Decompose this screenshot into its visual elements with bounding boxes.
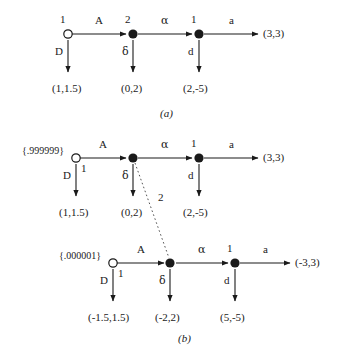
panel-a-action-alpha: α [161,15,168,26]
panel-b-bottom-action-d: d [224,275,230,286]
panel-b-bottom-action-alpha: α [198,244,205,255]
panel-b-top-action-A: A [99,139,107,150]
panel-b-bottom-node1-owner: 1 [118,268,124,279]
panel-a-action-delta: δ [122,46,129,57]
panel-a-node3-owner: 1 [191,14,197,25]
diagram-canvas [0,0,344,355]
panel-b-bottom-probability: {.000001} [59,251,101,261]
panel-a-payoff-down1: (1,1.5) [52,83,81,94]
panel-b-top-action-delta: δ [122,170,129,181]
panel-b-top-action-alpha: α [161,139,168,150]
panel-b-bottom-action-A: A [137,244,145,255]
panel-b-bottom-node3-owner: 1 [227,243,233,254]
node-bt-filled-player2 [128,153,137,162]
node-bb-filled-player1 [230,258,239,267]
panel-a-label: (a) [160,108,173,119]
panel-b-top-node1-owner: 1 [81,163,87,174]
panel-b-top-node3-owner: 1 [191,138,197,149]
panel-a-node2-owner: 2 [125,14,131,25]
panel-b-top-payoff-down3: (2,-5) [183,207,208,218]
node-bt-open-player1 [72,154,80,162]
game-tree-figure: 1 2 1 A α a D δ d (1,1.5) (0,2) (2,-5) (… [0,0,344,355]
panel-b-top-payoff-down2: (0,2) [121,207,142,218]
panel-b-bottom-action-D: D [100,275,108,286]
panel-a-edges [68,34,258,72]
panel-a-payoff-down2: (0,2) [121,83,142,94]
panel-a-payoff-right: (3,3) [263,28,284,39]
panel-b-bottom-action-lower-a: a [263,244,268,255]
panel-a-action-A: A [95,15,103,26]
node-bb-filled-player2 [165,258,174,267]
node-a-filled-player2 [128,29,137,38]
node-bt-filled-player1 [194,153,203,162]
panel-b-top-action-D: D [63,170,71,181]
panel-a-payoff-down3: (2,-5) [183,83,208,94]
panel-b-top-action-d: d [188,170,194,181]
panel-a-node1-owner: 1 [60,14,66,25]
panel-b-top-action-lower-a: a [229,139,234,150]
panel-b-bottom-payoff-down3: (5,-5) [220,312,245,323]
panel-b-top-payoff-down1: (1,1.5) [59,207,88,218]
panel-b-bottom-payoff-down2: (-2,2) [155,312,180,323]
panel-b-bottom-payoff-right: (-3,3) [295,257,320,268]
node-a-open-player1 [64,30,72,38]
panel-b-top-payoff-right: (3,3) [263,152,284,163]
node-bb-open-player1 [109,259,117,267]
panel-b-infoset-label: 2 [158,192,164,203]
panel-b-label: (b) [178,333,191,344]
panel-a-action-lower-a: a [229,15,234,26]
panel-b-bottom-payoff-down1: (-1.5,1.5) [88,312,129,323]
panel-b-bottom-edges [113,263,290,301]
node-a-filled-player1 [194,29,203,38]
panel-b-bottom-action-delta: δ [159,275,166,286]
panel-b-top-probability: {.999999} [22,146,64,156]
panel-a-action-D: D [55,46,63,57]
panel-a-action-d: d [188,46,194,57]
panel-b-top-edges [76,158,258,196]
